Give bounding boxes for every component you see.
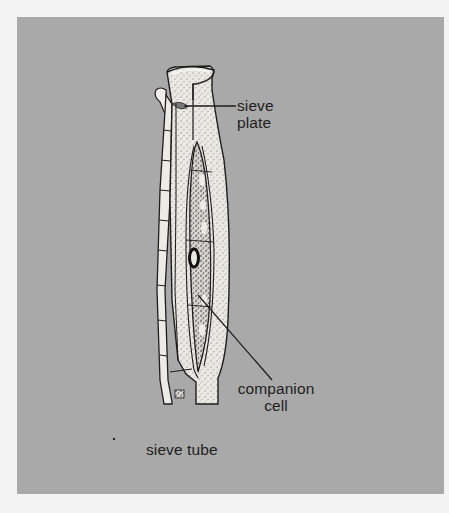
label-companion-cell-line1: companion <box>226 380 326 397</box>
phloem-illustration <box>0 0 449 513</box>
label-sieve-plate: sieve plate <box>237 97 274 131</box>
label-sieve-tube: sieve tube <box>146 441 218 458</box>
nucleus <box>190 249 199 267</box>
label-companion-cell: companion cell <box>226 380 326 414</box>
label-sieve-tube-text: sieve tube <box>146 441 218 458</box>
label-sieve-plate-line1: sieve <box>237 97 274 114</box>
label-sieve-plate-line2: plate <box>237 114 274 131</box>
parenchyma-strand <box>157 95 172 404</box>
label-companion-cell-line2: cell <box>226 397 326 414</box>
